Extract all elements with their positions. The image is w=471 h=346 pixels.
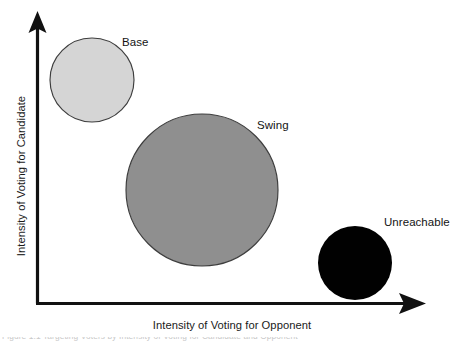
bubble-base[interactable] xyxy=(50,38,134,122)
bubble-swing[interactable] xyxy=(126,114,278,266)
bubble-label-base: Base xyxy=(122,36,148,48)
bubble-label-unreachable: Unreachable xyxy=(384,216,450,228)
bubble-chart: Base Swing Unreachable Intensity of Voti… xyxy=(0,0,471,346)
bubble-label-swing: Swing xyxy=(257,119,289,131)
x-axis-label: Intensity of Voting for Opponent xyxy=(153,319,312,331)
bubble-unreachable[interactable] xyxy=(318,226,392,300)
figure-root: Base Swing Unreachable Intensity of Voti… xyxy=(0,0,471,346)
bubble-group xyxy=(50,38,392,300)
y-axis-label: Intensity of Voting for Candidate xyxy=(15,96,27,256)
